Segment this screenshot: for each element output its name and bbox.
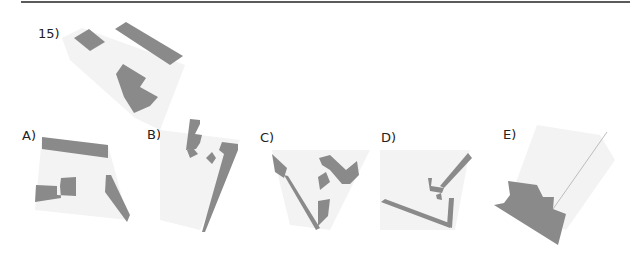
- dark-face: [62, 178, 76, 193]
- option-e-shape[interactable]: [494, 125, 615, 245]
- option-d-shape[interactable]: [380, 150, 472, 230]
- option-c-shape[interactable]: [272, 150, 370, 230]
- option-b-shape[interactable]: [160, 119, 240, 232]
- question-shape: [62, 22, 185, 130]
- figure-canvas: [0, 0, 635, 257]
- option-a-shape[interactable]: [35, 137, 130, 222]
